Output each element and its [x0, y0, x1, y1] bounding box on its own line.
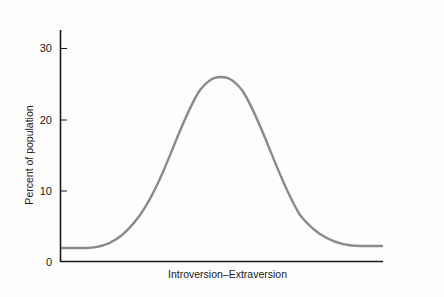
y-tick-label-20: 20	[40, 114, 52, 126]
distribution-curve	[62, 77, 382, 248]
x-axis-label: Introversion–Extraversion	[168, 268, 287, 280]
y-axis-label: Percent of population	[23, 105, 35, 204]
y-tick-label-0: 0	[46, 256, 52, 268]
y-tick-label-30: 30	[40, 42, 52, 54]
bell-curve-chart: 30 20 10 0 Percent of population Introve…	[0, 0, 444, 297]
y-tick-label-10: 10	[40, 185, 52, 197]
